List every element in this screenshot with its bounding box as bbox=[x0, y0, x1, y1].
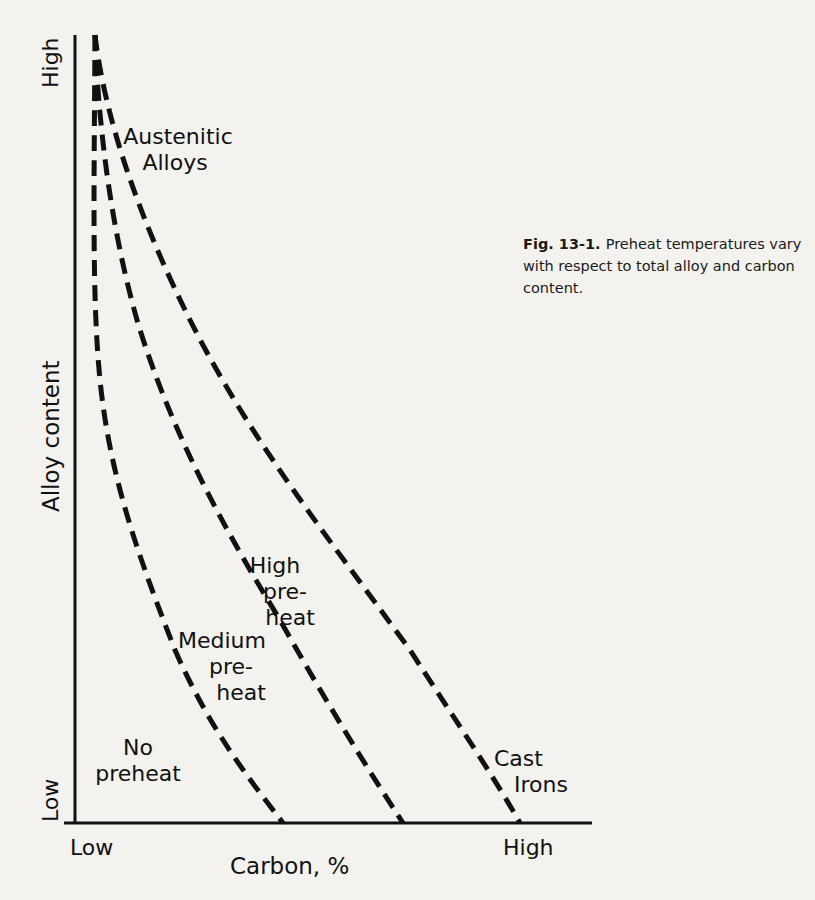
high-line2: pre- bbox=[240, 579, 330, 605]
austenitic-line1: Austenitic bbox=[118, 124, 238, 150]
label-high-preheat: High pre- heat bbox=[240, 553, 330, 631]
high-line3: heat bbox=[250, 605, 330, 631]
label-no-preheat: No preheat bbox=[88, 735, 188, 787]
x-axis-low-label: Low bbox=[70, 835, 113, 861]
label-cast-irons: Cast Irons bbox=[494, 746, 584, 798]
label-medium-preheat: Medium pre- heat bbox=[172, 628, 272, 706]
label-austenitic-alloys: Austenitic Alloys bbox=[118, 124, 238, 176]
y-axis-low-label: Low bbox=[38, 779, 63, 822]
no-preheat-line1: No bbox=[88, 735, 188, 761]
medium-line1: Medium bbox=[172, 628, 272, 654]
medium-line3: heat bbox=[210, 680, 272, 706]
x-axis-high-label: High bbox=[503, 835, 554, 861]
y-axis-title: Alloy content bbox=[38, 360, 64, 512]
figure-caption: Fig. 13-1. Preheat temperatures vary wit… bbox=[523, 233, 803, 299]
austenitic-line2: Alloys bbox=[112, 150, 238, 176]
figure-number: Fig. 13-1. bbox=[523, 236, 601, 252]
medium-line2: pre- bbox=[190, 654, 272, 680]
cast-line1: Cast bbox=[494, 746, 584, 772]
cast-line2: Irons bbox=[514, 772, 584, 798]
x-axis-title: Carbon, % bbox=[230, 853, 349, 879]
high-line1: High bbox=[220, 553, 330, 579]
no-preheat-line2: preheat bbox=[88, 761, 188, 787]
y-axis-high-label: High bbox=[38, 37, 63, 88]
